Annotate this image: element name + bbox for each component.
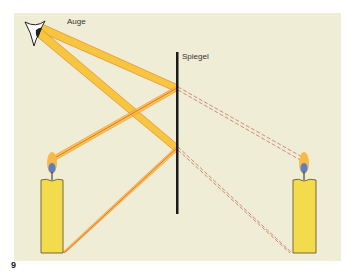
eye-label: Auge	[67, 17, 86, 26]
mirror-label: Spiegel	[182, 52, 209, 61]
mirror-reflection-diagram	[0, 0, 350, 276]
candle-mirror-image	[293, 152, 316, 253]
ray-lines	[51, 88, 177, 253]
figure-number: 9	[11, 260, 16, 270]
virtual-rays	[178, 87, 304, 253]
candle-real	[41, 152, 63, 253]
mirror	[176, 52, 179, 214]
